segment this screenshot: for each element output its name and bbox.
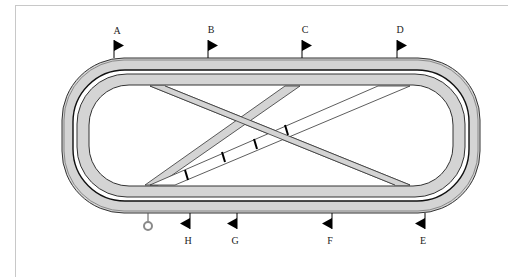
winning-post-ring-icon — [144, 213, 152, 230]
flag-B-icon — [208, 40, 218, 58]
flag-H-icon — [180, 213, 190, 229]
flag-label-c: C — [298, 25, 312, 35]
flag-E-icon — [415, 213, 425, 229]
flag-D-icon — [397, 40, 407, 58]
flag-label-b: B — [204, 25, 218, 35]
flag-G-icon — [227, 213, 237, 229]
bottom-flags — [180, 213, 425, 229]
flag-C-icon — [302, 40, 312, 58]
flag-label-d: D — [393, 25, 407, 35]
flag-label-g: G — [228, 236, 242, 246]
track-diagram — [0, 0, 508, 277]
flag-A-icon — [114, 40, 124, 58]
flag-label-h: H — [181, 236, 195, 246]
flag-label-e: E — [416, 236, 430, 246]
flag-label-a: A — [110, 26, 124, 36]
flag-label-f: F — [323, 236, 337, 246]
top-flags — [114, 40, 407, 58]
flag-F-icon — [322, 213, 332, 229]
